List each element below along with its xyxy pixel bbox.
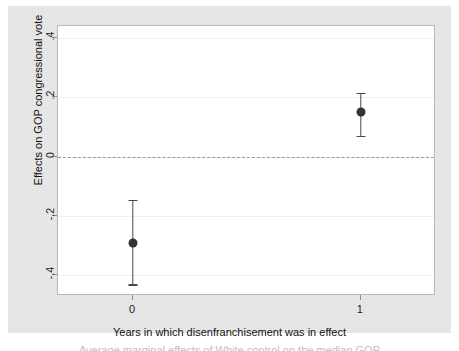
- figure-page: Effects on GOP congressional vote .4.20-…: [0, 0, 459, 351]
- gridline-y--.4: [58, 275, 434, 276]
- gridline-y--.2: [58, 216, 434, 217]
- data-point-group-1[interactable]: [351, 26, 371, 296]
- x-tick-label-0: 0: [112, 303, 152, 315]
- plot-area: [57, 25, 435, 295]
- data-point-group-0[interactable]: [123, 26, 143, 296]
- x-tick-mark-1: [360, 295, 361, 300]
- error-bar-cap-upper: [356, 93, 365, 95]
- y-tick-label-0: 0: [44, 140, 56, 170]
- error-bar-cap-upper: [129, 200, 138, 202]
- y-tick-label-.2: .2: [44, 80, 56, 110]
- error-bar-cap-lower: [356, 136, 365, 138]
- y-tick-label--.4: -.4: [44, 258, 56, 288]
- point-marker[interactable]: [129, 238, 138, 247]
- y-tick-label--.2: -.2: [44, 199, 56, 229]
- y-tick-label-.4: .4: [44, 21, 56, 51]
- figure-caption-partial: Average marginal effects of White contro…: [0, 344, 459, 351]
- error-bar-cap-lower: [129, 284, 138, 286]
- x-tick-mark-0: [132, 295, 133, 300]
- point-marker[interactable]: [356, 108, 365, 117]
- zero-reference-line: [58, 157, 434, 158]
- y-axis-title: Effects on GOP congressional vote: [32, 0, 44, 200]
- gridline-y-.2: [58, 97, 434, 98]
- x-tick-label-1: 1: [340, 303, 380, 315]
- x-axis-title: Years in which disenfranchisement was in…: [0, 326, 459, 338]
- gridline-y-.4: [58, 38, 434, 39]
